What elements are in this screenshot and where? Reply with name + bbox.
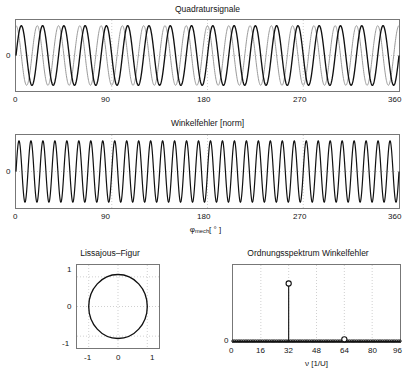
angle-error-xaxis-label: φmech[ ° ] (0, 225, 411, 234)
spectrum-stems (233, 265, 400, 342)
angle-error-title: Winkelfehler [norm] (15, 118, 400, 128)
lissajous-xtick-m1: -1 (84, 353, 91, 362)
angle-error-xtick-360: 360 (388, 212, 401, 221)
angle-error-xtick-180: 180 (197, 212, 210, 221)
angle-error-plot-area (15, 134, 400, 209)
spectrum-xaxis-label: ν [1/U] (232, 359, 401, 368)
spectrum-xtick-16: 16 (256, 346, 265, 355)
nu-symbol: ν (305, 359, 309, 368)
angle-error-curve (16, 135, 399, 208)
lissajous-ellipse-curve (77, 265, 159, 348)
spectrum-ytick-0: 0 (224, 336, 228, 345)
quadrature-xtick-360: 360 (388, 95, 401, 104)
lissajous-ytick-m1: -1 (62, 339, 69, 348)
spectrum-xtick-0: 0 (229, 346, 233, 355)
lissajous-xtick-1: 1 (150, 353, 154, 362)
spectrum-plot-area (232, 264, 401, 343)
spectrum-xtick-32: 32 (284, 346, 293, 355)
spectrum-xtick-80: 80 (368, 346, 377, 355)
quadrature-xtick-0: 0 (13, 95, 17, 104)
angle-error-ytick-0: 0 (6, 167, 10, 176)
panel-ordnungsspektrum: Ordnungsspektrum Winkelfehler 0 0 16 32 … (205, 243, 411, 381)
quadrature-ytick-0: 0 (6, 51, 10, 60)
angle-error-xtick-0: 0 (13, 212, 17, 221)
lissajous-plot-area (76, 264, 160, 349)
nu-unit: [1/U] (311, 359, 328, 368)
lissajous-title: Lissajous–Figur (36, 248, 184, 258)
angle-error-xtick-90: 90 (101, 212, 110, 221)
quadrature-xtick-90: 90 (101, 95, 110, 104)
spectrum-xtick-96: 96 (393, 346, 402, 355)
quadrature-title: Quadratursignale (15, 4, 400, 14)
lissajous-ytick-0: 0 (67, 302, 71, 311)
quadrature-curves (16, 20, 399, 91)
panel-winkelfehler: Winkelfehler [norm] 0 0 90 180 270 360 φ… (0, 116, 411, 241)
spectrum-xtick-48: 48 (312, 346, 321, 355)
phi-unit: [ ° ] (209, 225, 221, 234)
panel-quadratursignale: Quadratursignale 0 0 90 180 270 360 (0, 0, 411, 114)
quadrature-xtick-180: 180 (197, 95, 210, 104)
quadrature-xtick-270: 270 (293, 95, 306, 104)
quadrature-plot-area (15, 19, 400, 92)
panel-lissajous: Lissajous–Figur 1 0 -1 -1 0 1 (40, 243, 180, 381)
spectrum-xtick-64: 64 (340, 346, 349, 355)
phi-subscript: mech (195, 228, 209, 234)
lissajous-ytick-1: 1 (67, 265, 71, 274)
angle-error-xtick-270: 270 (293, 212, 306, 221)
lissajous-xtick-0: 0 (116, 353, 120, 362)
spectrum-title: Ordnungsspektrum Winkelfehler (205, 248, 411, 258)
